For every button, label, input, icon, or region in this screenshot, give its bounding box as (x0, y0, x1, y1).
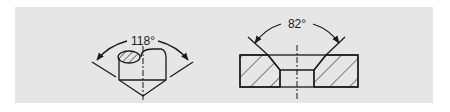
technical-drawing: 118° 82° (0, 0, 450, 112)
countersink-drawing (240, 24, 358, 100)
drill-point-drawing (92, 41, 193, 102)
drill-angle-label: 118° (131, 34, 155, 48)
countersink-angle-label: 82° (288, 17, 306, 31)
